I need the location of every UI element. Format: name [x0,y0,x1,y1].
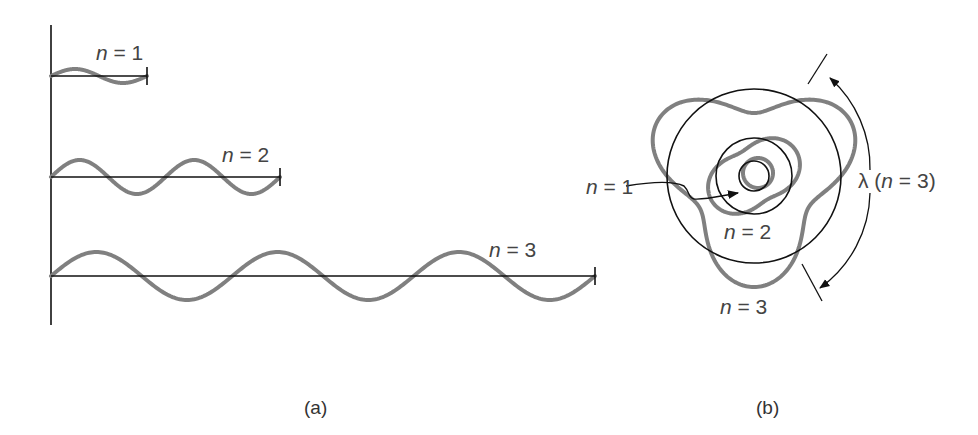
orbit-wave [708,138,800,214]
label-a-n3: n = 3 [489,239,536,260]
variable-n: n [724,220,736,243]
label-a-n2: n = 2 [222,144,269,165]
variable-n: n [489,238,501,261]
caption-b: (b) [756,398,779,417]
variable-n: n [720,295,732,318]
label-value: = 1 [108,41,144,64]
label-value: = 1 [598,175,634,198]
label-value: = 2 [234,143,270,166]
orbit-wave [653,100,856,287]
label-value: = 3 [732,295,768,318]
paren-open: ( [869,169,882,192]
label-wavelength: λ (n = 3) [858,170,936,191]
caption-a: (a) [304,398,327,417]
panel-b-circular-orbits [626,54,870,301]
variable-n: n [586,175,598,198]
wavelength-arc-lower [820,193,870,288]
label-value: = 3) [893,169,936,192]
variable-n: n [881,169,893,192]
label-b-n1: n = 1 [586,176,633,197]
orbit-n2 [708,138,800,214]
bohr-standing-waves-figure [0,0,978,435]
label-b-n2: n = 2 [724,221,771,242]
variable-n: n [222,143,234,166]
label-value: = 2 [736,220,772,243]
label-value: = 3 [501,238,537,261]
orbit-n1 [739,158,773,191]
panel-a-linear-standing-waves [51,25,595,325]
orbit-circle [716,138,792,214]
label-b-n3: n = 3 [720,296,767,317]
lambda-symbol: λ [858,169,869,192]
variable-n: n [96,41,108,64]
standing-wave-n1 [51,67,147,85]
label-a-n1: n = 1 [96,42,143,63]
